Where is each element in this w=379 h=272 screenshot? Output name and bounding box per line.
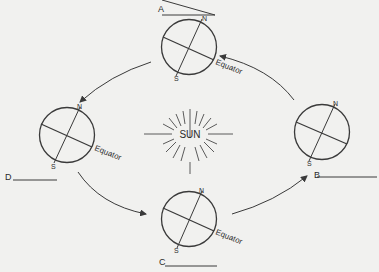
globe-a-south: S — [174, 75, 179, 82]
globe-b-north: N — [333, 100, 338, 107]
sun: SUN — [144, 109, 233, 174]
globe-d: N S Equator D — [5, 103, 123, 182]
globe-b-south: S — [307, 160, 312, 167]
globe-a: A N S Equator — [158, 0, 244, 82]
globe-b: N S B — [295, 100, 378, 180]
arrow-c-to-b-icon — [232, 176, 307, 214]
globe-d-label: D — [5, 172, 12, 182]
globe-c-south: S — [174, 247, 179, 254]
globe-c-label: C — [159, 257, 166, 267]
globe-d-north: N — [77, 103, 82, 110]
globe-c-north: N — [199, 187, 204, 194]
arrow-d-to-c-icon — [78, 172, 146, 214]
globe-c-equator: Equator — [214, 228, 244, 247]
globe-c: N S Equator C — [159, 187, 244, 267]
globe-d-equator: Equator — [93, 144, 123, 163]
globe-a-label: A — [158, 4, 164, 14]
sun-label: SUN — [179, 129, 200, 140]
globe-a-north: N — [202, 15, 207, 22]
orbit-diagram: SUN A N S Equator N S Equator D N S Equa… — [0, 0, 379, 272]
globe-a-answer-blank[interactable] — [162, 0, 215, 15]
sun-rays-icon — [144, 109, 233, 174]
globe-a-equator: Equator — [214, 58, 244, 77]
arrow-a-to-d-icon — [80, 62, 151, 102]
globe-c-earth-icon — [162, 192, 217, 247]
globe-d-south: S — [51, 163, 56, 170]
globe-b-label: B — [314, 170, 320, 180]
